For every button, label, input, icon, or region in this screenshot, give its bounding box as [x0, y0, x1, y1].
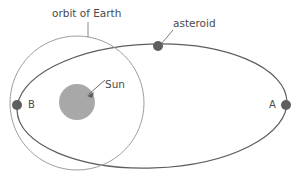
asteroid-dot: [153, 41, 163, 51]
sun-disc: [59, 84, 95, 120]
point-b-label: B: [28, 100, 35, 110]
asteroid-label: asteroid: [173, 18, 216, 29]
point-b-dot: [12, 100, 22, 110]
sun-leader-line: [89, 80, 105, 94]
asteroid-leader-line: [162, 30, 173, 43]
orbit-of-earth-label: orbit of Earth: [52, 8, 121, 19]
sun-label: Sun: [105, 79, 125, 90]
orbit-diagram: orbit of Earth asteroid Sun A B: [0, 0, 301, 183]
asteroid-orbit-ellipse: [15, 39, 289, 172]
orbit-diagram-canvas: [0, 0, 301, 183]
point-a-dot: [281, 100, 291, 110]
point-a-label: A: [269, 100, 276, 110]
